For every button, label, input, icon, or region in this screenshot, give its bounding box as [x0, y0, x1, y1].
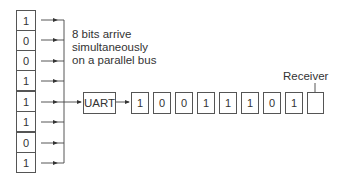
- receiver-box: [307, 92, 324, 114]
- parallel-bit-cell: 0: [16, 50, 36, 71]
- parallel-bit-cell: 1: [16, 111, 36, 132]
- serial-bit-cell: 0: [175, 92, 193, 114]
- serial-bit-cell: 1: [285, 92, 303, 114]
- serial-bit-cell: 1: [219, 92, 237, 114]
- parallel-bit-cell: 0: [16, 132, 36, 153]
- bus-caption-line-1: 8 bits arrive: [72, 28, 131, 41]
- parallel-bit-cell: 1: [16, 70, 36, 91]
- connector-lines: [0, 0, 340, 178]
- serial-bit-cell: 1: [131, 92, 149, 114]
- bus-caption-line-3: on a parallel bus: [72, 54, 156, 67]
- uart-box: UART: [83, 92, 116, 114]
- serial-bit-cell: 0: [263, 92, 281, 114]
- parallel-bit-cell: 1: [16, 152, 36, 173]
- serial-bit-cell: 0: [153, 92, 171, 114]
- serial-bit-cell: 1: [241, 92, 259, 114]
- parallel-bit-cell: 1: [16, 91, 36, 112]
- receiver-label: Receiver: [283, 70, 328, 83]
- bus-caption-line-2: simultaneously: [72, 41, 148, 54]
- parallel-bit-cell: 1: [16, 10, 36, 31]
- serial-bit-cell: 1: [197, 92, 215, 114]
- parallel-bit-cell: 0: [16, 30, 36, 51]
